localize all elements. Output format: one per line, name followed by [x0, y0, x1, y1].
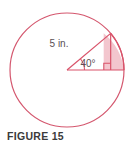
radius-length-label: 5 in.: [50, 38, 69, 49]
figure-container: 5 in. 40° FIGURE 15: [0, 0, 134, 147]
central-angle-label: 40°: [80, 58, 95, 69]
geometry-diagram: 5 in. 40°: [0, 0, 134, 132]
figure-caption: FIGURE 15: [7, 130, 64, 142]
